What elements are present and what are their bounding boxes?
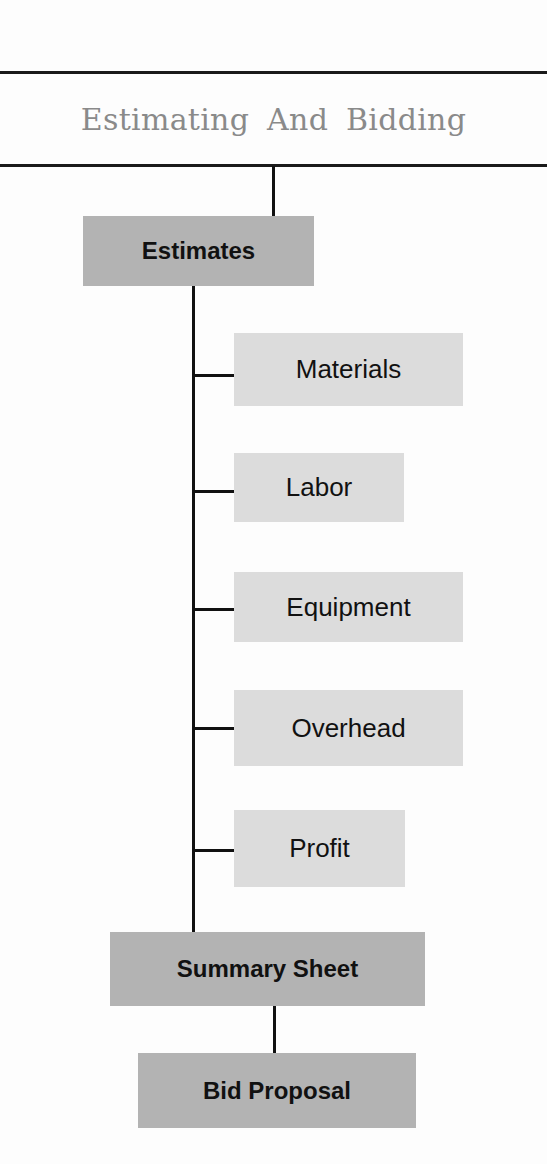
branch-equipment [194,608,234,611]
summary-sheet-label: Summary Sheet [177,955,358,983]
labor-label: Labor [286,472,353,503]
profit-box: Profit [234,810,405,887]
summary-sheet-box: Summary Sheet [110,932,425,1006]
materials-box: Materials [234,333,463,406]
title-to-estimates-connector [272,166,275,216]
branch-materials [194,374,234,377]
branch-profit [194,849,234,852]
labor-box: Labor [234,453,404,522]
estimates-label: Estimates [142,237,255,265]
overhead-label: Overhead [291,713,405,744]
estimates-box: Estimates [83,216,314,286]
summary-to-bid-connector [273,1006,276,1053]
equipment-label: Equipment [286,592,410,623]
diagram-title: Estimating And Bidding [0,76,547,162]
header-top-rule [0,71,547,74]
materials-label: Materials [296,354,401,385]
overhead-box: Overhead [234,690,463,766]
equipment-box: Equipment [234,572,463,642]
branch-labor [194,490,234,493]
bid-proposal-label: Bid Proposal [203,1077,351,1105]
branch-overhead [194,727,234,730]
bid-proposal-box: Bid Proposal [138,1053,416,1128]
profit-label: Profit [289,833,350,864]
